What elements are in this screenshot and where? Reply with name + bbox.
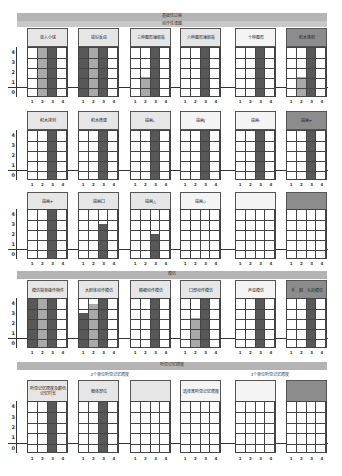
bar	[151, 131, 160, 179]
x-tick-label: 2	[140, 261, 150, 266]
y-axis: 43210	[8, 298, 17, 348]
y-tick-label: 4	[12, 133, 15, 138]
y-axis-line	[16, 209, 17, 259]
top-section-band: 基础性过程	[17, 13, 327, 21]
panel-title: 积木堆积	[286, 28, 327, 47]
bar-column	[28, 131, 38, 179]
panel-title: 三种图形镶嵌板	[130, 28, 171, 47]
y-tick-label: 2	[12, 153, 15, 158]
x-tick-label: 3	[48, 350, 58, 355]
y-axis: 43210	[8, 401, 17, 453]
panel-grid	[180, 209, 221, 259]
bar-column	[297, 210, 307, 258]
x-tick-label: 3	[256, 261, 266, 266]
panel-grid	[286, 47, 327, 97]
x-tick-label: 3	[256, 182, 266, 187]
bar-column	[108, 131, 118, 179]
panel-grid	[27, 298, 68, 348]
x-tick-label: 3	[151, 261, 161, 266]
panel-title	[130, 380, 171, 402]
x-tick-label: 4	[109, 261, 119, 266]
x-tick-labels: 1234	[286, 261, 327, 266]
bar-column	[236, 131, 246, 179]
x-tick-label: 4	[58, 456, 68, 461]
x-tick-label: 4	[211, 182, 221, 187]
panel-title: 描画|	[180, 111, 221, 130]
bar-column	[191, 210, 201, 258]
panel-title: 声音模仿	[235, 280, 276, 300]
y-tick-label: 3	[12, 415, 15, 420]
bar	[38, 48, 47, 96]
bar-column	[307, 210, 317, 258]
chart-panel: 听觉记忆跨度及颜色记忆时长1234	[27, 380, 68, 464]
x-tick-label: 2	[88, 261, 98, 266]
bar-column	[48, 402, 58, 452]
y-tick-label: 3	[12, 222, 15, 227]
bar-column	[246, 210, 256, 258]
x-tick-label: 3	[307, 456, 317, 461]
x-tick-label: 1	[130, 99, 140, 104]
bar-column	[79, 210, 89, 258]
x-tick-label: 1	[78, 99, 88, 104]
x-tick-labels: 1234	[286, 99, 327, 104]
bar-column	[256, 402, 266, 452]
chart-panel: 放入小球1234	[27, 28, 68, 107]
bar-column	[236, 299, 246, 347]
bar-column	[201, 402, 211, 452]
bottom-subtitle-right: 3个单位听觉记忆跨度	[220, 372, 320, 378]
y-tick-label: 3	[12, 311, 15, 316]
bar-column	[28, 48, 38, 96]
x-tick-label: 1	[235, 261, 245, 266]
x-tick-labels: 1234	[27, 182, 68, 187]
panel-title: 摇铃反应	[78, 28, 119, 47]
x-tick-label: 1	[286, 456, 296, 461]
x-tick-label: 2	[296, 456, 306, 461]
x-tick-label: 3	[151, 456, 161, 461]
bar	[256, 48, 265, 96]
panel-title: 积木搭建	[78, 111, 119, 130]
bar-column	[160, 402, 170, 452]
bar-column	[99, 131, 109, 179]
x-tick-label: 4	[58, 261, 68, 266]
panel-grid	[130, 298, 171, 348]
chart-panel: 六种图形镶嵌板1234	[180, 28, 221, 107]
panel-grid	[286, 209, 327, 259]
y-tick-label: 0	[12, 173, 15, 178]
panel-grid	[130, 209, 171, 259]
y-axis: 43210	[8, 209, 17, 259]
x-tick-labels: 1234	[78, 350, 119, 355]
bar-column	[160, 48, 170, 96]
bar-column	[236, 402, 246, 452]
bar-column	[181, 299, 191, 347]
panel-title	[235, 380, 276, 402]
x-tick-label: 1	[27, 261, 37, 266]
bar-column	[307, 299, 317, 347]
x-tick-label: 2	[296, 182, 306, 187]
bar-column	[131, 131, 141, 179]
x-tick-label: 3	[48, 261, 58, 266]
y-tick-label: 0	[12, 252, 15, 257]
x-tick-label: 3	[99, 182, 109, 187]
chart-panel: 1234	[286, 380, 327, 464]
bar-column	[160, 131, 170, 179]
x-tick-labels: 1234	[235, 261, 276, 266]
x-tick-labels: 1234	[78, 261, 119, 266]
panel-grid	[78, 130, 119, 180]
bar-column	[287, 210, 297, 258]
x-tick-label: 1	[235, 99, 245, 104]
panel-grid	[27, 209, 68, 259]
bar-column	[99, 210, 109, 258]
panel-grid	[286, 401, 327, 453]
chart-panel: 口部动作模仿1234	[180, 280, 221, 358]
x-tick-label: 4	[266, 182, 276, 187]
y-axis-line	[16, 298, 17, 348]
x-tick-labels: 1234	[78, 99, 119, 104]
x-tick-label: 3	[201, 350, 211, 355]
x-tick-label: 3	[201, 99, 211, 104]
x-tick-label: 1	[130, 456, 140, 461]
bar-column	[151, 402, 161, 452]
bar	[99, 224, 108, 258]
bar-column	[316, 402, 326, 452]
bar	[99, 299, 108, 347]
x-tick-label: 4	[317, 182, 327, 187]
